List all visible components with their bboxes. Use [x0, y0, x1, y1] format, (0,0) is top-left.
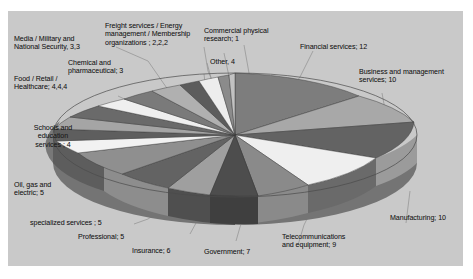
label-insurance: Insurance; 6 [132, 247, 198, 255]
chart-plot-area: Media / Military and National Security, … [8, 11, 463, 266]
label-chemical-pharma: Chemical and pharmaceutical; 3 [68, 59, 154, 76]
label-manufacturing: Manufacturing; 10 [390, 214, 463, 222]
label-media-military: Media / Military and National Security, … [14, 35, 118, 52]
label-specialized-services: specialized services ; 5 [30, 219, 138, 227]
label-oil-gas-electric: Oil, gas and electric; 5 [14, 181, 86, 198]
label-telecom-equipment: Telecommunications and equipment; 9 [282, 233, 372, 250]
label-schools-education: Schools and education services ; 4 [14, 124, 92, 149]
label-professional: Professional; 5 [78, 233, 154, 241]
label-business-management: Business and management services; 10 [359, 68, 463, 85]
label-government: Government; 7 [204, 248, 278, 256]
label-food-retail-health: Food / Retail / Healthcare; 4,4,4 [14, 75, 110, 92]
label-freight-energy-member: Freight services / Energy management / M… [105, 22, 217, 47]
label-other: Other, 4 [210, 58, 270, 66]
label-commercial-research: Commercial physical research; 1 [204, 27, 296, 44]
label-financial-services: Financial services; 12 [300, 43, 404, 51]
